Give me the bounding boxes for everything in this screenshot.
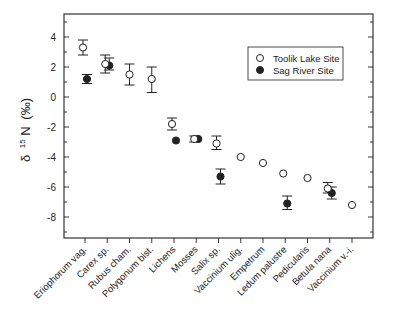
- ylabel-unit: (‰): [18, 98, 33, 120]
- open-circle-marker: [191, 135, 198, 142]
- svg-text:δ 15 N (‰): δ 15 N (‰): [13, 98, 33, 162]
- open-circle-marker: [79, 44, 86, 51]
- y-tick-label: 0: [50, 92, 56, 103]
- open-circle-legend-icon: [257, 55, 264, 62]
- open-circle-marker: [348, 201, 355, 208]
- filled-circle-marker: [284, 200, 291, 207]
- open-circle-marker: [148, 75, 155, 82]
- legend-label-toolik: Toolik Lake Site: [273, 53, 340, 64]
- open-circle-marker: [237, 153, 244, 160]
- filled-circle-marker: [217, 173, 224, 180]
- open-circle-marker: [280, 170, 287, 177]
- legend: Toolik Lake Site Sag River Site: [248, 47, 343, 80]
- open-circle-marker: [168, 120, 175, 127]
- y-tick-label: 4: [50, 32, 56, 43]
- y-tick-label: -4: [47, 152, 56, 163]
- open-circle-marker: [259, 159, 266, 166]
- open-circle-marker: [102, 60, 109, 67]
- filled-circle-legend-icon: [257, 67, 264, 74]
- ylabel-delta: δ: [18, 155, 33, 162]
- open-circle-marker: [324, 185, 331, 192]
- ylabel-element: N: [18, 126, 33, 135]
- open-circle-marker: [213, 140, 220, 147]
- isotope-scatter-chart: 420-2-4-6-8 Eriophorum vag.Carex sp.Rubu…: [0, 0, 395, 315]
- y-tick-label: -6: [47, 182, 56, 193]
- filled-circle-marker: [172, 137, 179, 144]
- filled-circle-marker: [83, 75, 90, 82]
- y-tick-label: -8: [47, 212, 56, 223]
- legend-label-sag: Sag River Site: [273, 65, 334, 76]
- ylabel-superscript: 15: [18, 139, 27, 148]
- x-axis: Eriophorum vag.Carex sp.Rubus cham.Polyg…: [31, 238, 355, 301]
- y-tick-label: -2: [47, 122, 56, 133]
- open-circle-marker: [304, 174, 311, 181]
- series-sag-river: [82, 58, 337, 210]
- y-tick-label: 2: [50, 62, 56, 73]
- y-axis-title: δ 15 N (‰): [13, 98, 33, 162]
- open-circle-marker: [126, 71, 133, 78]
